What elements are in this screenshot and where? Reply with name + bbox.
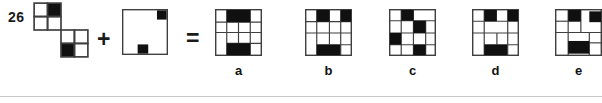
option-e-grid <box>555 9 602 56</box>
option-b-label: b <box>305 63 352 78</box>
bottom-divider <box>0 96 602 97</box>
option-a-label: a <box>215 63 262 78</box>
option-d-label: d <box>472 63 519 78</box>
option-e-label: e <box>555 63 602 78</box>
option-a[interactable]: a <box>215 9 262 78</box>
equals-operator: = <box>186 27 199 50</box>
option-e[interactable]: e <box>555 9 602 78</box>
option-c-figure <box>389 9 436 56</box>
option-c-grid <box>389 9 436 56</box>
option-b[interactable]: b <box>305 9 352 78</box>
operand-figure-1 <box>33 2 89 58</box>
option-d-grid <box>472 9 519 56</box>
option-c[interactable]: c <box>389 9 436 78</box>
puzzle-sheet: 26 + = a b c d e <box>0 0 602 103</box>
option-a-figure <box>215 9 262 56</box>
option-e-figure <box>555 9 602 56</box>
option-b-grid <box>305 9 352 56</box>
option-a-grid <box>215 9 262 56</box>
plus-operator: + <box>97 28 110 51</box>
option-b-figure <box>305 9 352 56</box>
option-d[interactable]: d <box>472 9 519 78</box>
square-figure <box>122 9 168 55</box>
option-c-label: c <box>389 63 436 78</box>
dual-grid-figure <box>33 2 89 58</box>
operand-figure-2 <box>122 9 168 55</box>
option-d-figure <box>472 9 519 56</box>
question-number: 26 <box>8 9 25 25</box>
